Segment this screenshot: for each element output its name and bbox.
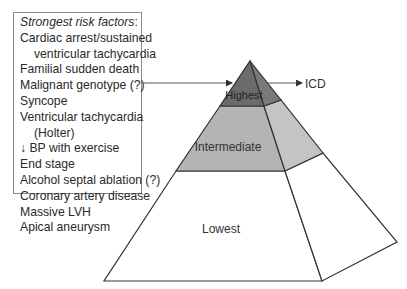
risk-pyramid-diagram: ICD Highest Intermediate Lowest xyxy=(0,0,407,289)
tier-lowest xyxy=(104,153,397,281)
icd-label: ICD xyxy=(305,77,326,91)
tier-intermediate xyxy=(176,100,323,171)
tier-lowest-label: Lowest xyxy=(202,222,241,236)
tier-highest-label: Highest xyxy=(225,89,262,101)
tier-intermediate-label: Intermediate xyxy=(195,140,262,154)
